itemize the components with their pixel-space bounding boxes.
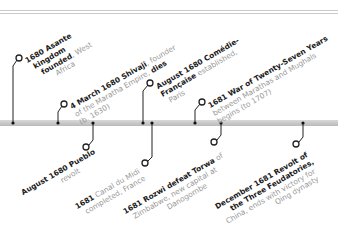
connector-shivaji [58, 106, 62, 123]
connector-feudatories [299, 123, 303, 142]
node-asante-icon [16, 55, 22, 61]
node-shivaji-icon [61, 101, 67, 107]
connector-war27 [195, 104, 200, 123]
connector-asante [13, 60, 17, 123]
connector-pueblo [89, 123, 93, 145]
node-war27-icon [199, 99, 205, 105]
node-rozwi-icon [211, 139, 217, 145]
node-feudatories-icon [293, 141, 299, 147]
connector-canal [148, 123, 152, 161]
node-canal-icon [142, 160, 148, 166]
